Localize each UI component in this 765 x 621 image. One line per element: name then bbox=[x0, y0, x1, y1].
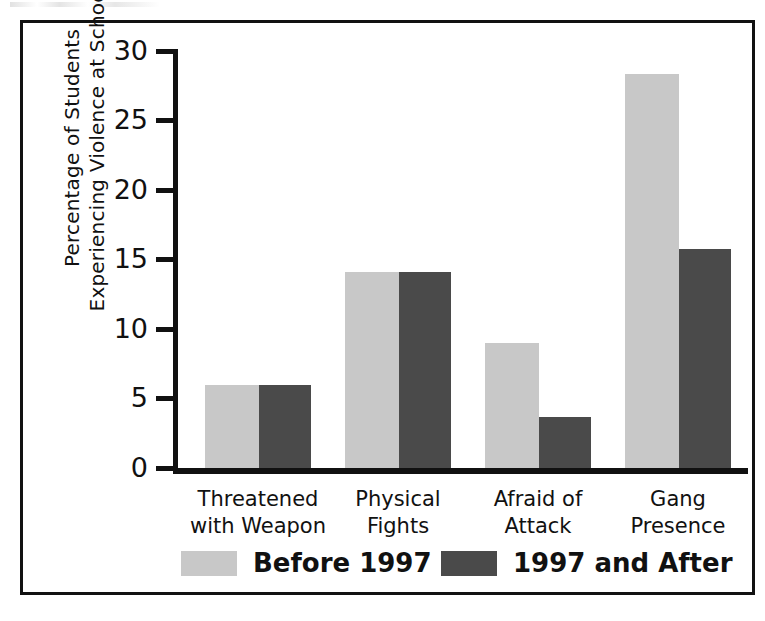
category-label-line1: Gang bbox=[608, 486, 748, 513]
legend-item-before-1997: Before 1997 bbox=[181, 546, 432, 580]
legend-label-before-1997: Before 1997 bbox=[253, 548, 432, 578]
y-tick-label-5: 5 bbox=[108, 384, 148, 411]
category-label-line1: Physical bbox=[328, 486, 468, 513]
category-label-line1: Threatened bbox=[188, 486, 328, 513]
legend: Before 1997 1997 and After bbox=[173, 546, 733, 586]
bar-physical-fights-1997-and-after bbox=[399, 272, 451, 468]
x-axis-line bbox=[173, 468, 748, 474]
legend-label-1997-and-after: 1997 and After bbox=[513, 548, 732, 578]
y-tick-mark-25 bbox=[156, 118, 176, 123]
bar-afraid-of-attack-1997-and-after bbox=[539, 417, 591, 468]
bar-afraid-of-attack-before-1997 bbox=[485, 343, 539, 468]
y-tick-label-10: 10 bbox=[108, 315, 148, 342]
y-tick-mark-30 bbox=[156, 49, 176, 54]
legend-swatch-1997-and-after bbox=[441, 551, 497, 576]
y-tick-label-30: 30 bbox=[108, 37, 148, 64]
bar-threatened-with-weapon-1997-and-after bbox=[259, 385, 311, 468]
plot-area: Percentage of Students Experiencing Viol… bbox=[23, 23, 758, 598]
category-label-threatened-with-weapon: Threatened with Weapon bbox=[188, 486, 328, 540]
category-label-physical-fights: Physical Fights bbox=[328, 486, 468, 540]
category-label-line1: Afraid of bbox=[468, 486, 608, 513]
bar-threatened-with-weapon-before-1997 bbox=[205, 385, 259, 468]
category-label-line2: Fights bbox=[328, 513, 468, 540]
bar-physical-fights-before-1997 bbox=[345, 272, 399, 468]
legend-item-1997-and-after: 1997 and After bbox=[441, 546, 732, 580]
y-tick-mark-0 bbox=[156, 466, 176, 471]
bar-gang-presence-before-1997 bbox=[625, 74, 679, 468]
category-label-gang-presence: Gang Presence bbox=[608, 486, 748, 540]
y-axis-title-line2: Experiencing Violence at School bbox=[85, 0, 110, 348]
category-label-line2: with Weapon bbox=[188, 513, 328, 540]
y-axis-title-line1: Percentage of Students bbox=[60, 0, 85, 348]
category-label-line2: Presence bbox=[608, 513, 748, 540]
bar-gang-presence-1997-and-after bbox=[679, 249, 731, 468]
y-tick-mark-5 bbox=[156, 396, 176, 401]
legend-swatch-before-1997 bbox=[181, 551, 237, 576]
y-tick-label-15: 15 bbox=[108, 245, 148, 272]
y-tick-mark-15 bbox=[156, 257, 176, 262]
y-tick-mark-20 bbox=[156, 188, 176, 193]
category-label-afraid-of-attack: Afraid of Attack bbox=[468, 486, 608, 540]
y-tick-label-0: 0 bbox=[108, 454, 148, 481]
figure-frame: Percentage of Students Experiencing Viol… bbox=[20, 20, 755, 595]
category-label-line2: Attack bbox=[468, 513, 608, 540]
y-tick-mark-10 bbox=[156, 327, 176, 332]
y-tick-label-25: 25 bbox=[108, 106, 148, 133]
y-tick-label-20: 20 bbox=[108, 176, 148, 203]
